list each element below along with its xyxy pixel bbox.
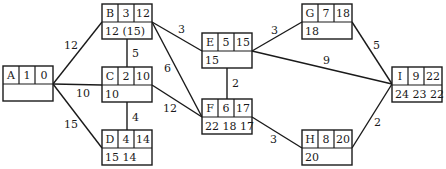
node-h: H82020 (302, 130, 352, 165)
edge-line (352, 22, 392, 84)
edge-weight-label: 12 (64, 39, 78, 52)
node-bottom-values: 18 (305, 25, 319, 38)
edge-weight-label: 4 (132, 111, 139, 124)
node-id: C (106, 70, 114, 83)
edge-h-i: 2 (352, 84, 392, 148)
node-b: B31212 (15) (102, 4, 152, 39)
node-id: I (398, 70, 402, 83)
node-d: D41415 14 (102, 130, 152, 165)
edge-c-d: 4 (127, 101, 139, 130)
node-value: 15 (236, 36, 250, 49)
edge-weight-label: 3 (271, 24, 278, 37)
edge-line (152, 85, 202, 117)
edge-f-h: 3 (252, 117, 302, 148)
node-duration: 4 (123, 133, 130, 146)
edge-weight-label: 3 (178, 23, 185, 36)
node-bottom-values: 10 (105, 88, 119, 101)
edge-weight-label: 5 (132, 47, 139, 60)
edge-line (352, 84, 392, 148)
node-bottom-values: 15 (205, 54, 219, 67)
node-id: H (305, 133, 315, 146)
edge-weight-label: 5 (373, 39, 380, 52)
node-id: D (106, 133, 115, 146)
edge-weight-label: 9 (323, 54, 330, 67)
node-value: 14 (136, 133, 150, 146)
edge-line (252, 51, 392, 84)
edge-weight-label: 12 (163, 102, 177, 115)
edge-line (53, 22, 102, 84)
node-duration: 3 (123, 7, 130, 20)
node-value: 20 (336, 133, 350, 146)
node-bottom-values: 20 (305, 151, 319, 164)
node-e: E51515 (202, 33, 252, 68)
node-bottom-values: 12 (15) (105, 25, 145, 38)
node-id: F (206, 102, 214, 115)
node-duration: 5 (223, 36, 230, 49)
edge-b-c: 5 (127, 39, 139, 67)
node-i: I92224 23 22 (392, 67, 444, 102)
edge-line (53, 84, 102, 85)
node-value: 18 (336, 7, 350, 20)
edge-weight-label: 2 (374, 116, 381, 129)
node-value: 12 (136, 7, 150, 20)
node-bottom-values: 15 14 (105, 151, 137, 164)
edge-line (252, 117, 302, 148)
edge-e-f: 2 (227, 67, 239, 99)
node-duration: 6 (223, 102, 230, 115)
node-id: E (206, 36, 214, 49)
node-value: 0 (41, 69, 48, 82)
node-value: 10 (136, 70, 150, 83)
node-id: A (6, 69, 16, 82)
node-f: F61722 18 17 (202, 99, 254, 134)
node-c: C21010 (102, 67, 152, 102)
node-duration: 2 (123, 70, 130, 83)
activity-network-diagram: 121015543612239532 A10B31212 (15)C21010D… (0, 0, 446, 169)
edge-a-c: 10 (53, 84, 102, 100)
edge-a-b: 12 (53, 22, 102, 84)
node-bottom-values: 24 23 22 (395, 88, 444, 101)
edge-e-i: 9 (252, 51, 392, 84)
node-duration: 9 (413, 70, 420, 83)
edge-weight-label: 10 (76, 87, 90, 100)
edge-e-g: 3 (252, 22, 302, 51)
node-value: 17 (236, 102, 250, 115)
node-duration: 7 (323, 7, 330, 20)
node-id: G (306, 7, 315, 20)
edge-c-f: 12 (152, 85, 202, 117)
edge-g-i: 5 (352, 22, 392, 84)
node-g: G71818 (302, 4, 352, 39)
edge-weight-label: 2 (232, 77, 239, 90)
node-duration: 8 (323, 133, 330, 146)
node-bottom-values: 22 18 17 (205, 120, 254, 133)
node-duration: 1 (24, 69, 31, 82)
edge-weight-label: 3 (270, 133, 277, 146)
node-value: 22 (426, 70, 440, 83)
node-id: B (106, 7, 114, 20)
edge-weight-label: 6 (164, 62, 171, 75)
node-a: A10 (3, 66, 53, 101)
edge-weight-label: 15 (64, 118, 78, 131)
